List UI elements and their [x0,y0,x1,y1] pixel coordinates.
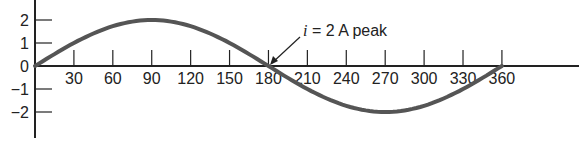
annotation-arrow [272,37,300,63]
y-tick-label: 2 [20,12,29,29]
sine-wave-chart: 306090120150180210240270300330360210−1−2… [0,0,586,143]
x-tick-label: 120 [177,70,204,87]
svg-text:i = 2 A peak: i = 2 A peak [303,22,388,39]
x-tick-label: 240 [333,70,360,87]
y-tick-label: 1 [20,35,29,52]
y-tick-label: 0 [20,58,29,75]
x-tick-label: 270 [372,70,399,87]
x-tick-label: 150 [216,70,243,87]
x-tick-label: 90 [143,70,161,87]
x-tick-label: 30 [65,70,83,87]
y-tick-label: −1 [11,81,29,98]
peak-annotation: i = 2 A peak [270,22,388,65]
y-tick-label: −2 [11,104,29,121]
x-tick-label: 300 [411,70,438,87]
x-tick-label: 60 [104,70,122,87]
arrowhead-icon [270,56,278,65]
annotation-text: = 2 A peak [307,22,388,39]
